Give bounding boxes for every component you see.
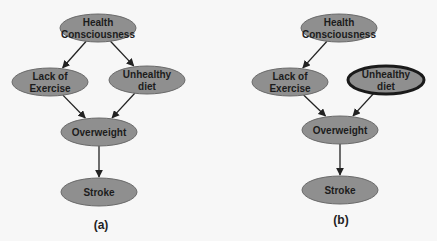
node-label: Unhealthy: [123, 69, 172, 80]
node-label: Unhealthy: [362, 69, 411, 80]
node-label: Overweight: [313, 125, 368, 136]
node-label: Lack of: [272, 71, 308, 82]
edge-health-to-exercise: [63, 41, 87, 68]
node-label: Health: [83, 17, 114, 28]
node-diet: Unhealthydiet: [348, 66, 424, 94]
bayesian-network-figure: HealthConsciousnessLack ofExerciseUnheal…: [0, 0, 437, 241]
node-stroke: Stroke: [302, 176, 378, 204]
node-health: HealthConsciousness: [301, 14, 377, 42]
node-diet: Unhealthydiet: [109, 66, 185, 94]
diagram-caption: (a): [94, 218, 109, 232]
node-label: Stroke: [324, 185, 356, 196]
node-label: Exercise: [269, 83, 311, 94]
edge-exercise-to-overweight: [304, 95, 326, 116]
node-exercise: Lack ofExercise: [252, 68, 328, 96]
node-stroke: Stroke: [61, 178, 137, 206]
edge-health-to-diet: [110, 41, 133, 66]
edge-diet-to-overweight: [353, 93, 374, 116]
node-label: Health: [324, 17, 355, 28]
edge-health-to-exercise: [303, 41, 327, 68]
node-overweight: Overweight: [61, 118, 137, 146]
node-label: Stroke: [83, 187, 115, 198]
node-label: Consciousness: [302, 29, 376, 40]
node-label: Lack of: [32, 71, 68, 82]
diagram-b: HealthConsciousnessLack ofExerciseUnheal…: [252, 14, 424, 227]
node-overweight: Overweight: [302, 116, 378, 144]
diagram-caption: (b): [333, 213, 348, 227]
node-health: HealthConsciousness: [60, 14, 136, 42]
diagram-a: HealthConsciousnessLack ofExerciseUnheal…: [12, 14, 185, 232]
edge-exercise-to-overweight: [63, 95, 85, 118]
node-label: Consciousness: [61, 29, 135, 40]
node-label: diet: [138, 81, 156, 92]
node-label: Overweight: [72, 127, 127, 138]
node-label: Exercise: [29, 83, 71, 94]
node-exercise: Lack ofExercise: [12, 68, 88, 96]
node-label: diet: [377, 81, 395, 92]
edge-diet-to-overweight: [112, 93, 135, 118]
